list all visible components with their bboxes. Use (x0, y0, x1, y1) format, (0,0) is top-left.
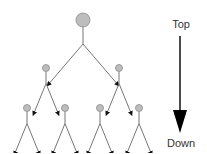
tree-node-l2c (97, 105, 104, 112)
edge-arrow (14, 124, 27, 154)
tree-node-l1a (43, 65, 50, 72)
tree-node-l2a (24, 105, 31, 112)
edge-arrow (65, 124, 78, 154)
edge-arrow (83, 44, 119, 86)
edge-arrow (27, 124, 40, 154)
edge-arrow (33, 84, 46, 116)
tree (14, 13, 152, 153)
direction-indicator: Top Down (167, 18, 195, 149)
down-label: Down (167, 137, 195, 149)
tree-node-l2d (136, 105, 143, 112)
tree-node-l1b (116, 65, 123, 72)
edge-arrow (47, 44, 83, 86)
edge-arrow (46, 84, 59, 116)
edge-arrow (52, 124, 65, 154)
tree-diagram: Top Down (0, 0, 207, 153)
top-label: Top (172, 18, 190, 30)
arrow-down-icon (173, 110, 187, 133)
edge-arrow (87, 124, 100, 154)
tree-node-l2b (62, 105, 69, 112)
edge-arrow (139, 124, 152, 154)
edge-arrow (106, 84, 119, 116)
edge-arrow (126, 124, 139, 154)
tree-node-root (76, 13, 90, 27)
edge-arrow (119, 84, 132, 116)
edge-arrow (100, 124, 113, 154)
